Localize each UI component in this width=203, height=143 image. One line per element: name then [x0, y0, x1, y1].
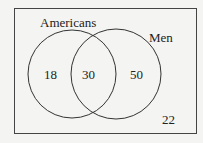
intersection-value: 30 [82, 67, 95, 82]
americans-circle [28, 30, 116, 118]
outside-value: 22 [162, 112, 175, 127]
venn-diagram: Americans Men 18 30 50 22 [0, 0, 203, 143]
americans-only-value: 18 [44, 67, 57, 82]
americans-label: Americans [40, 15, 96, 30]
men-label: Men [149, 30, 173, 45]
men-only-value: 50 [130, 67, 143, 82]
